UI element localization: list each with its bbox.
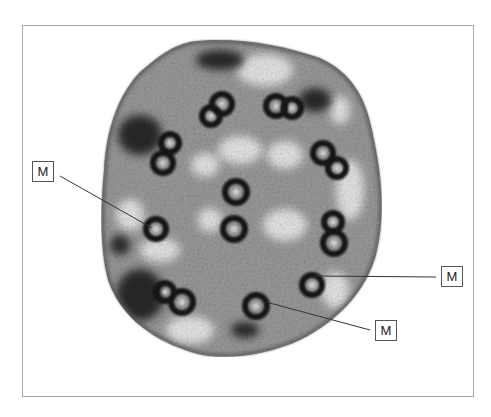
label-text: M <box>381 324 392 337</box>
label-text: M <box>447 270 458 283</box>
label-m-bottom: M <box>375 320 397 341</box>
label-m-left: M <box>32 161 54 182</box>
micrograph-image <box>0 0 491 417</box>
axoneme-cross-section <box>101 40 381 357</box>
label-m-right: M <box>441 266 463 287</box>
label-text: M <box>38 165 49 178</box>
